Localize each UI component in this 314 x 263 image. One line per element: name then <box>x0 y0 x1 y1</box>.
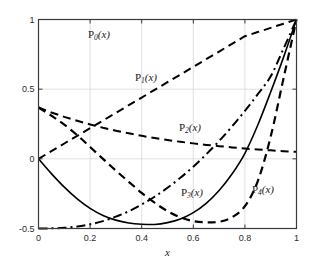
figure-chart-legendre-like-polynomials: 00.20.40.60.81-0.500.51xP0(x)P1(x)P2(x)P… <box>0 0 314 263</box>
x-tick-label: 0.8 <box>239 234 252 243</box>
x-axis-title: x <box>165 247 170 258</box>
x-tick-label: 0.2 <box>84 234 97 243</box>
curve-label-argument: (x) <box>191 186 203 198</box>
curve-label-p4: P4(x) <box>252 184 274 196</box>
curve-label-p0: P0(x) <box>88 29 110 41</box>
curve-label-p1: P1(x) <box>135 72 157 84</box>
plot-canvas <box>0 0 314 263</box>
curve-label-argument: (x) <box>145 71 157 83</box>
curve-p0x <box>39 108 297 152</box>
curves-group <box>39 20 297 229</box>
x-tick-label: 0 <box>36 234 41 243</box>
x-tick-label: 0.6 <box>187 234 200 243</box>
y-tick-label: 1 <box>29 15 34 24</box>
x-tick-label: 1 <box>294 234 299 243</box>
curve-label-p2: P2(x) <box>179 122 201 134</box>
curve-label-p3: P3(x) <box>181 187 203 199</box>
y-tick-label: -0.5 <box>19 224 35 233</box>
curve-label-argument: (x) <box>262 183 274 195</box>
x-tick-label: 0.4 <box>135 234 148 243</box>
y-tick-label: 0.5 <box>22 85 35 94</box>
curve-label-argument: (x) <box>189 121 201 133</box>
curve-label-argument: (x) <box>98 28 110 40</box>
y-tick-label: 0 <box>29 154 34 163</box>
